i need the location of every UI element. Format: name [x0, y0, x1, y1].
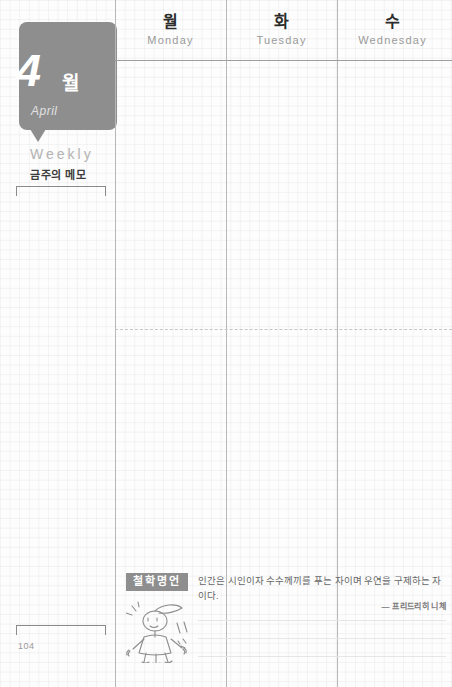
- quote-badge: 철학명언: [126, 573, 188, 591]
- day-header-monday: 월 Monday: [115, 12, 226, 46]
- quote-author: — 프리드리히 니체: [246, 600, 446, 611]
- day-label-ko: 수: [337, 12, 448, 32]
- person-doodle-icon: [126, 601, 202, 663]
- header-rule: [115, 60, 452, 61]
- page-number: 104: [18, 641, 35, 651]
- midday-dashed-divider: [115, 329, 452, 330]
- column-divider-1: [115, 0, 116, 687]
- day-header-tuesday: 화 Tuesday: [226, 12, 337, 46]
- day-label-ko: 월: [115, 12, 226, 32]
- day-header-wednesday: 수 Wednesday: [337, 12, 448, 46]
- day-label-en: Tuesday: [226, 34, 337, 46]
- memo-label: 금주의 메모: [30, 166, 86, 182]
- writing-line: [198, 656, 446, 657]
- memo-bracket-bottom: [16, 625, 106, 635]
- weekly-label: Weekly: [30, 146, 94, 162]
- memo-bracket-top: [16, 186, 106, 196]
- month-tab-pointer: [30, 129, 46, 142]
- writing-line: [198, 620, 446, 621]
- day-label-ko: 화: [226, 12, 337, 32]
- month-unit-label: 월: [62, 74, 79, 93]
- month-english-label: April: [31, 104, 58, 118]
- planner-page: 4 월 April Weekly 금주의 메모 104 월 Monday 화 T…: [0, 0, 452, 687]
- day-label-en: Wednesday: [337, 34, 448, 46]
- month-number: 4: [16, 48, 40, 93]
- day-label-en: Monday: [115, 34, 226, 46]
- writing-line: [198, 638, 446, 639]
